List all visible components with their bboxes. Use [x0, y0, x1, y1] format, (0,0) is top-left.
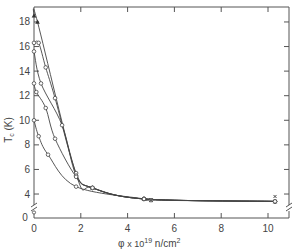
- y-tick-label: 10: [19, 115, 31, 126]
- y-tick-label: 18: [19, 16, 31, 27]
- y-tick-label: 16: [19, 41, 31, 52]
- circle-marker: [37, 41, 41, 45]
- circle-marker: [44, 66, 48, 70]
- x-axis-title: φ x 1019 n/cm2: [118, 237, 181, 249]
- circle-marker: [273, 200, 277, 204]
- series-line-curve-1: [33, 9, 275, 202]
- circle-marker: [74, 175, 78, 179]
- x-marker: [274, 195, 277, 198]
- circle-marker: [46, 153, 50, 157]
- svg-text:Tc (K): Tc (K): [3, 117, 15, 143]
- x-tick-label: 2: [78, 223, 84, 234]
- svg-text:φ x 1019 n/cm2: φ x 1019 n/cm2: [118, 237, 181, 249]
- circle-marker: [32, 118, 36, 122]
- x-tick-label: 6: [172, 223, 178, 234]
- y-tick-label: 14: [19, 66, 31, 77]
- circle-marker: [53, 137, 57, 141]
- circle-marker: [44, 106, 48, 110]
- circle-marker: [142, 197, 146, 201]
- circle-marker: [32, 82, 36, 86]
- x-tick-label: 10: [262, 223, 274, 234]
- series-line-curve-3: [34, 51, 275, 201]
- circle-marker: [35, 90, 39, 94]
- circle-marker: [37, 134, 41, 138]
- y-tick-label: 8: [24, 139, 30, 150]
- data-markers: [32, 13, 278, 214]
- plot-frame: [31, 7, 292, 218]
- circle-marker: [32, 50, 36, 54]
- circle-marker: [60, 123, 64, 127]
- circle-marker: [39, 82, 43, 86]
- y-axis-title: Tc (K): [3, 117, 15, 143]
- circle-marker: [91, 186, 95, 190]
- data-curves: [33, 9, 275, 202]
- y-tick-label: 4: [24, 189, 30, 200]
- circle-marker: [74, 185, 78, 189]
- x-tick-label: 8: [218, 223, 224, 234]
- series-line-curve-5: [34, 120, 275, 201]
- y-tick-label: 12: [19, 90, 31, 101]
- chart-canvas: 246810 4681012141618 0 0 φ x 1019 n/cm2 …: [0, 0, 294, 251]
- y-origin-label: 0: [22, 212, 28, 223]
- origin-label: 0: [31, 223, 37, 234]
- x-tick-label: 4: [125, 223, 131, 234]
- y-tick-label: 6: [24, 164, 30, 175]
- circle-marker: [32, 41, 36, 45]
- circle-marker: [53, 96, 57, 100]
- series-line-curve-2: [34, 41, 275, 201]
- annotation-marker: [32, 211, 35, 214]
